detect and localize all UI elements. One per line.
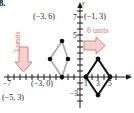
preimage-quadrilateral — [48, 39, 71, 80]
point-label-neg3-0: (−3, 0) — [31, 80, 53, 88]
y-tick-5: 5 — [73, 32, 77, 40]
point-label-neg1-3: (−1, 3) — [84, 13, 106, 21]
vertex-point — [96, 57, 101, 62]
vertex-point — [96, 93, 101, 98]
point-label-neg3-6: (−3, 6) — [33, 13, 55, 21]
x-axis-label: x — [128, 72, 131, 78]
y-tick-neg3: −3 — [70, 90, 78, 98]
vertex-point — [66, 57, 71, 62]
arrow-right-6-units — [84, 37, 105, 54]
y-tick-7: 7 — [73, 14, 77, 22]
y-axis-label: y — [82, 0, 85, 6]
annotation-6-units: 6 units — [87, 27, 109, 35]
x-tick-neg7: −7 — [3, 80, 11, 88]
point-label-neg5-3: (−5, 3) — [2, 94, 24, 102]
annotation-3-units: 3 units — [14, 31, 22, 53]
figure-container: 8. — [0, 0, 134, 113]
x-tick-5: 5 — [108, 80, 112, 88]
x-axis — [4, 74, 132, 80]
vertex-point — [60, 75, 65, 80]
vertex-point — [60, 39, 65, 44]
vertex-point — [48, 57, 53, 62]
x-tick-3: 3 — [96, 80, 100, 88]
x-tick-1: 1 — [84, 80, 88, 88]
